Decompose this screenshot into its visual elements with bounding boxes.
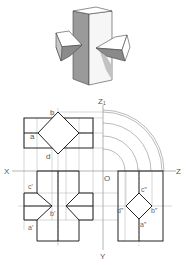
label-d: d <box>46 152 50 161</box>
z-axis-label: Z <box>176 167 181 176</box>
label-c-double-prime: c” <box>141 186 148 193</box>
z1-axis-label: Z₁ <box>98 97 106 106</box>
label-b-prime: b' <box>50 210 55 217</box>
transfer-arcs <box>103 110 164 171</box>
label-a-double-prime: a” <box>140 221 147 228</box>
label-b: b <box>50 108 55 117</box>
top-view <box>24 171 93 241</box>
y-axis-label: Y <box>100 252 106 261</box>
isometric-view <box>56 7 130 85</box>
origin-label: O <box>104 174 110 183</box>
label-c-prime: c' <box>28 183 33 190</box>
label-d-double-prime: d” <box>117 207 124 214</box>
label-b-double-prime: b” <box>151 207 158 214</box>
label-a-prime: a' <box>28 224 33 231</box>
projection-drawing: X Z Z₁ Y O <box>0 0 186 265</box>
label-a: a <box>30 132 35 141</box>
x-axis-label: X <box>4 167 10 176</box>
projection-lines <box>18 108 172 246</box>
side-diamond <box>126 193 152 219</box>
